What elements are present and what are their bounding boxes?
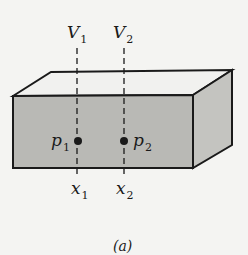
label-p1: p1 (51, 132, 70, 149)
label-v2: V2 (113, 24, 133, 41)
label-x1: x1 (71, 180, 89, 197)
label-p2: p2 (133, 132, 152, 149)
label-v1-main: V (67, 22, 79, 42)
label-v1-sub: 1 (80, 33, 87, 46)
label-x2: x2 (116, 180, 134, 197)
block-front-face (13, 95, 193, 168)
label-p1-main: p (51, 130, 62, 150)
point-p1 (74, 137, 82, 145)
label-v1: V1 (67, 24, 87, 41)
label-v2-sub: 2 (126, 33, 133, 46)
label-x1-main: x (71, 178, 81, 198)
figure-caption: (a) (113, 238, 132, 254)
label-x1-sub: 1 (82, 189, 89, 202)
label-x2-sub: 2 (127, 189, 134, 202)
point-p2 (120, 137, 128, 145)
label-p2-sub: 2 (145, 141, 152, 154)
label-p2-main: p (133, 130, 144, 150)
label-v2-main: V (113, 22, 125, 42)
label-p1-sub: 1 (63, 141, 70, 154)
label-x2-main: x (116, 178, 126, 198)
